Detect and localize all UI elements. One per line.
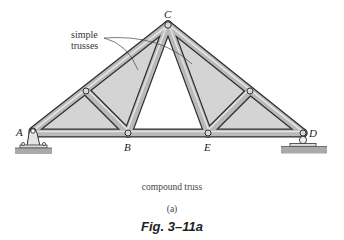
joint-label-E: E bbox=[204, 142, 211, 153]
roller-support-D bbox=[281, 136, 327, 153]
joint-label-C: C bbox=[164, 9, 171, 20]
joint-label-B: B bbox=[124, 142, 131, 153]
diagram-caption: compound truss bbox=[0, 182, 344, 192]
annotation-line-1: simple bbox=[71, 30, 98, 41]
figure-title: Fig. 3–11a bbox=[0, 219, 344, 234]
simple-trusses-annotation: simple trusses bbox=[71, 30, 98, 51]
annotation-line-2: trusses bbox=[71, 41, 98, 52]
subfigure-label: (a) bbox=[0, 204, 344, 214]
figure-canvas: C A B E D simple trusses compound truss … bbox=[0, 0, 344, 240]
ground-A bbox=[15, 148, 52, 154]
joint-label-A: A bbox=[16, 127, 23, 138]
ground-D bbox=[281, 147, 327, 154]
joint-label-D: D bbox=[309, 128, 317, 139]
